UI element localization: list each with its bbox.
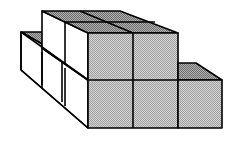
cube-group <box>21 11 222 128</box>
cube-diagram <box>0 0 237 143</box>
right-low-top-face <box>178 63 222 80</box>
right-low-front-face <box>178 80 222 128</box>
